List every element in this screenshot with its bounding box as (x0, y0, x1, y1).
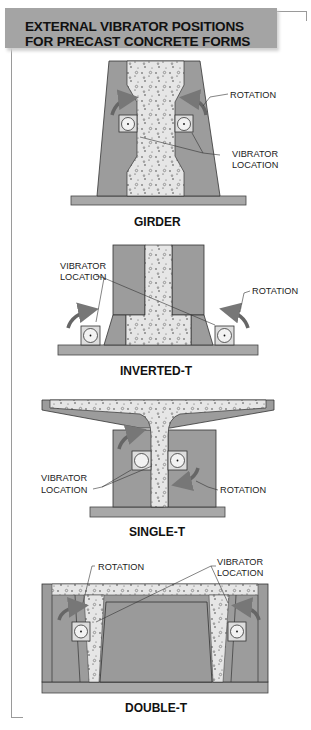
inverted-t-rotation-label: ROTATION (252, 286, 298, 296)
single-t-vibrator-label: VIBRATOR (41, 473, 87, 483)
double-t-location-label: LOCATION (217, 568, 263, 578)
single-t-diagram: VIBRATOR LOCATION ROTATION SINGLE-T (41, 400, 274, 539)
girder-location-label: LOCATION (232, 160, 278, 170)
girder-diagram: ROTATION VIBRATOR LOCATION GIRDER (71, 61, 278, 229)
single-t-location-label: LOCATION (41, 485, 87, 495)
inverted-t-diagram: VIBRATOR LOCATION ROTATION INVERTED-T (58, 245, 298, 378)
double-t-rotation-label: ROTATION (98, 562, 144, 572)
double-t-vibrator-label: VIBRATOR (217, 557, 263, 567)
girder-rotation-label: ROTATION (230, 90, 276, 100)
inverted-t-caption: INVERTED-T (120, 364, 193, 378)
double-t-diagram: ROTATION VIBRATOR LOCATION DOUBLE-T (42, 557, 268, 715)
inverted-t-vibrator-label: VIBRATOR (60, 261, 106, 271)
double-t-caption: DOUBLE-T (125, 701, 188, 715)
inverted-t-location-label: LOCATION (60, 272, 106, 282)
girder-caption: GIRDER (134, 215, 181, 229)
rotation-arrow-icon (226, 310, 248, 328)
rotation-arrow-icon (68, 310, 92, 328)
girder-vibrator-label: VIBRATOR (232, 149, 278, 159)
diagram-canvas: ROTATION VIBRATOR LOCATION GIRDER VIBRAT… (0, 0, 311, 730)
single-t-caption: SINGLE-T (129, 525, 186, 539)
single-t-rotation-label: ROTATION (220, 485, 266, 495)
